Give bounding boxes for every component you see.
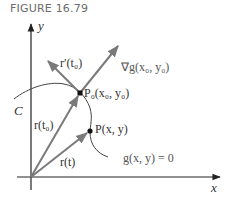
gradient-vector-label: ∇g(x₀, y₀) bbox=[120, 60, 169, 74]
y-axis-label: y bbox=[36, 18, 44, 33]
x-axis-label: x bbox=[210, 180, 217, 195]
point-p bbox=[87, 128, 92, 133]
curve-label: C bbox=[14, 103, 23, 118]
point-p-label: P(x, y) bbox=[95, 122, 128, 136]
tangent-vector-label: r′(t₀) bbox=[60, 56, 82, 70]
level-curve-diagram: y x C r′(t₀) ∇g(x₀, y₀) P₀(x₀, y₀) P(x, … bbox=[0, 0, 226, 197]
position-t-label: r(t) bbox=[60, 155, 75, 169]
position-vector-t bbox=[31, 133, 87, 177]
equation-label: g(x, y) = 0 bbox=[123, 151, 174, 165]
point-p0-label: P₀(x₀, y₀) bbox=[84, 86, 129, 100]
position-t0-label: r(t₀) bbox=[34, 118, 54, 132]
point-p0 bbox=[78, 91, 83, 96]
